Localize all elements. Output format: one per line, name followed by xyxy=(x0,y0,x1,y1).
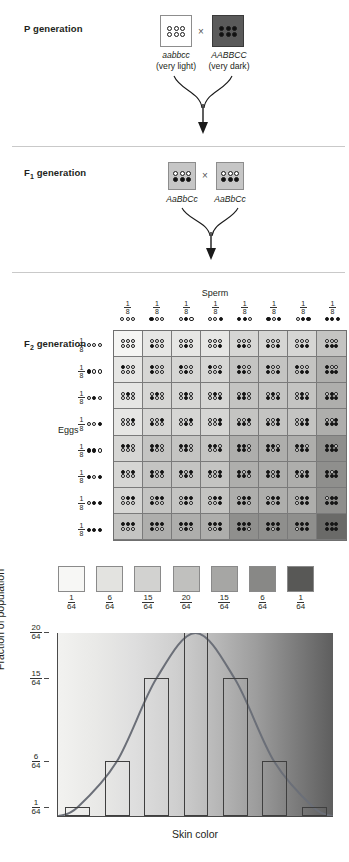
gamete-allele-set xyxy=(179,317,194,321)
swatch-color xyxy=(211,566,238,592)
sperm-allele-row xyxy=(121,344,134,348)
chart-bar xyxy=(262,761,287,816)
sperm-allele-row xyxy=(295,527,308,531)
allele-open xyxy=(98,369,102,373)
allele-open xyxy=(266,339,270,343)
fraction: 18 xyxy=(153,300,160,316)
allele-fill xyxy=(184,527,188,531)
allele-open xyxy=(131,392,135,396)
allele-fill xyxy=(155,444,159,448)
allele-open xyxy=(295,418,299,422)
allele-open xyxy=(92,422,96,426)
allele-fill xyxy=(237,317,241,321)
offspring-genotype xyxy=(207,521,222,532)
allele-fill xyxy=(266,527,270,531)
sperm-allele-row xyxy=(266,422,279,426)
egg-allele-row xyxy=(237,418,250,422)
allele-open xyxy=(179,339,183,343)
allele-fill xyxy=(325,527,329,531)
allele-open xyxy=(330,418,334,422)
sperm-allele-row xyxy=(150,370,163,374)
punnett-cell xyxy=(143,514,172,540)
sperm-allele-row xyxy=(325,370,338,374)
gamete-allele-set xyxy=(87,528,102,532)
sperm-allele-row xyxy=(208,344,221,348)
allele-fill xyxy=(325,474,329,478)
allele-fill xyxy=(242,474,246,478)
allele-fill xyxy=(271,522,275,526)
tick-mark xyxy=(44,761,49,762)
sperm-allele-row xyxy=(325,396,338,400)
allele-fill xyxy=(276,470,280,474)
allele-fill xyxy=(218,527,222,531)
sperm-allele-row xyxy=(179,474,192,478)
allele-fill xyxy=(189,522,193,526)
allele-open xyxy=(126,474,130,478)
allele-open xyxy=(184,470,188,474)
egg-gamete-header-7: 18 xyxy=(78,522,102,538)
gamete-allele-set xyxy=(87,501,102,505)
allele-fill xyxy=(237,396,241,400)
allele-open xyxy=(155,418,159,422)
f1-parent-2-box xyxy=(216,162,244,190)
offspring-genotype xyxy=(120,495,135,506)
allele-fill xyxy=(242,344,246,348)
allele-fill xyxy=(305,527,309,531)
fraction-denominator: 8 xyxy=(153,308,160,315)
allele-open xyxy=(121,474,125,478)
sperm-allele-row xyxy=(150,474,163,478)
allele-open xyxy=(92,475,96,479)
allele-fill xyxy=(295,470,299,474)
allele-fill xyxy=(300,444,304,448)
egg-allele-row xyxy=(208,522,221,526)
fraction-denominator: 64 xyxy=(257,603,269,611)
fraction-numerator: 1 xyxy=(78,364,85,372)
gamete-allele-set xyxy=(87,343,102,347)
gamete-allele-set xyxy=(87,422,102,426)
allele-fill xyxy=(330,501,334,505)
fraction: 18 xyxy=(212,300,219,316)
allele-fill xyxy=(184,344,188,348)
allele-fill xyxy=(150,396,154,400)
allele-fill xyxy=(242,448,246,452)
allele-open xyxy=(218,392,222,396)
allele-open xyxy=(150,496,154,500)
allele-fill xyxy=(150,370,154,374)
allele-open xyxy=(325,392,329,396)
allele-open xyxy=(266,418,270,422)
allele-fill xyxy=(325,444,329,448)
sperm-allele-row xyxy=(295,344,308,348)
allele-fill xyxy=(276,396,280,400)
punnett-cell xyxy=(317,436,346,462)
allele-fill xyxy=(305,396,309,400)
allele-open xyxy=(121,422,125,426)
egg-allele-row xyxy=(179,365,192,369)
sperm-gamete-header-0: 18 xyxy=(113,300,142,321)
egg-allele-row xyxy=(121,522,134,526)
allele-fill xyxy=(160,470,164,474)
allele-fill xyxy=(237,444,241,448)
allele-fill xyxy=(305,344,309,348)
punnett-cell xyxy=(114,331,143,357)
allele-open xyxy=(242,418,246,422)
p-generation-label: P generation xyxy=(24,23,83,34)
allele-open xyxy=(276,444,280,448)
f1-parent-1-box xyxy=(168,162,196,190)
punnett-cell xyxy=(259,488,288,514)
offspring-genotype xyxy=(120,521,135,532)
punnett-cell xyxy=(259,462,288,488)
egg-allele-row xyxy=(150,470,163,474)
sperm-allele-row xyxy=(150,422,163,426)
egg-gamete-header-3: 18 xyxy=(78,416,102,432)
allele-fill xyxy=(218,496,222,500)
allele-fill xyxy=(330,522,334,526)
allele-fill xyxy=(334,501,338,505)
allele-fill xyxy=(276,344,280,348)
allele-open xyxy=(131,444,135,448)
allele-open xyxy=(305,444,309,448)
allele-fill xyxy=(305,418,309,422)
allele-fill xyxy=(266,370,270,374)
offspring-genotype xyxy=(178,443,193,454)
chart-x-axis-label: Skin color xyxy=(57,828,333,840)
allele-fill xyxy=(98,501,102,505)
